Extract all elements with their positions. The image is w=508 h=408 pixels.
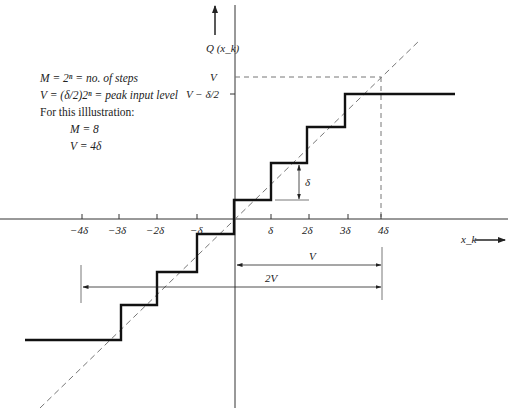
note-m-definition: M = 2ⁿ = no. of steps bbox=[40, 70, 178, 87]
quantizer-diagram: Q (x_k) x_k V V − δ/2 −4δ −3δ −2δ −δ δ 2… bbox=[0, 0, 508, 408]
y-tick-v-minus-half: V − δ/2 bbox=[186, 88, 220, 100]
note-v-definition: V = (δ/2)2ⁿ = peak input level bbox=[40, 87, 178, 104]
x-ticks bbox=[82, 214, 381, 219]
x-tick-label: −δ bbox=[190, 224, 203, 236]
x-tick-label: −4δ bbox=[70, 224, 89, 236]
step-height-label: δ bbox=[305, 176, 311, 188]
y-axis-label: Q (x_k) bbox=[206, 42, 240, 55]
note-m-value: M = 8 bbox=[40, 121, 178, 138]
x-tick-label: δ bbox=[268, 224, 274, 236]
x-tick-label: −2δ bbox=[146, 224, 165, 236]
x-tick-label: 3δ bbox=[339, 224, 352, 236]
span-v-label: V bbox=[309, 250, 317, 262]
x-tick-label: −3δ bbox=[108, 224, 127, 236]
x-tick-label: 4δ bbox=[378, 224, 390, 236]
note-v-value: V = 4δ bbox=[40, 138, 178, 155]
note-illustration-heading: For this illlustration: bbox=[40, 104, 178, 121]
x-tick-label: 2δ bbox=[302, 224, 314, 236]
y-tick-v: V bbox=[210, 71, 218, 83]
x-axis-label: x_k bbox=[460, 233, 477, 245]
span-2v-label: 2V bbox=[265, 272, 279, 284]
legend-notes: M = 2ⁿ = no. of steps V = (δ/2)2ⁿ = peak… bbox=[40, 70, 178, 155]
